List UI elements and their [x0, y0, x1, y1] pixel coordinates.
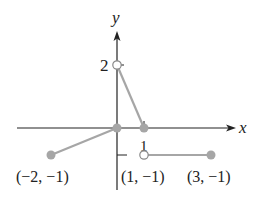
annotation-neg2-neg1: (−2, −1) [16, 168, 69, 186]
y-axis-label: y [110, 8, 120, 27]
closed-point-neg2-neg1 [47, 151, 56, 160]
piecewise-function-graph: x y 2 1 (−2, −1) (1, −1) (3, −1) [0, 0, 256, 204]
segment-2-line [117, 65, 144, 128]
annotation-3-neg1: (3, −1) [187, 168, 231, 186]
closed-point-0-0 [113, 124, 122, 133]
open-point-0-2 [113, 61, 121, 69]
segment-1-line [51, 128, 117, 155]
x-axis-label: x [238, 118, 247, 137]
open-point-1-neg1 [140, 151, 148, 159]
closed-point-1-0 [140, 124, 149, 133]
closed-point-3-neg1 [207, 151, 216, 160]
y-tick-label-2: 2 [100, 56, 109, 75]
annotation-1-neg1: (1, −1) [121, 168, 165, 186]
